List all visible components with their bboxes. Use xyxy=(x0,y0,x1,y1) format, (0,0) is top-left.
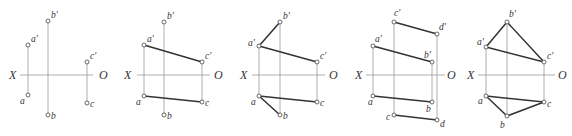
point-label: a xyxy=(368,97,373,107)
point-label: d xyxy=(440,119,445,129)
point-label: b' xyxy=(167,11,175,21)
point-marker xyxy=(505,20,509,24)
point-marker xyxy=(505,114,509,118)
point-label: c xyxy=(205,98,210,108)
axis-label-o: O xyxy=(329,68,338,82)
point-marker xyxy=(142,94,146,98)
projection-edge xyxy=(486,22,507,47)
projection-edge xyxy=(373,96,432,102)
point-marker xyxy=(200,100,204,104)
point-marker xyxy=(162,113,166,117)
point-marker xyxy=(26,43,30,47)
panel-4: XOa'b'c'd'abcd xyxy=(354,8,456,129)
axis-label-x: X xyxy=(239,68,248,82)
projection-figure: XOa'b'c'abcXOa'b'c'abcXOa'b'c'abcXOa'b'c… xyxy=(0,0,572,136)
point-marker xyxy=(142,43,146,47)
axis-label-x: X xyxy=(466,68,475,82)
point-label: d' xyxy=(439,22,447,32)
point-marker xyxy=(392,113,396,117)
projection-edge xyxy=(507,22,544,62)
panel-5: XOa'b'c'abc xyxy=(466,9,567,130)
point-label: b' xyxy=(509,9,517,19)
point-marker xyxy=(278,20,282,24)
point-label: a xyxy=(136,97,141,107)
panel-3: XOa'b'c'abc xyxy=(239,11,338,121)
axis-label-x: X xyxy=(123,68,132,82)
point-label: a xyxy=(251,97,256,107)
projection-edge xyxy=(144,96,202,102)
point-label: b xyxy=(500,120,505,130)
projection-diagram-svg: XOa'b'c'abcXOa'b'c'abcXOa'b'c'abcXOa'b'c… xyxy=(0,0,572,136)
point-marker xyxy=(200,60,204,64)
projection-edge xyxy=(259,46,317,62)
point-label: a' xyxy=(477,37,485,47)
projection-edge xyxy=(507,102,544,116)
panel-1: XOa'b'c'abc xyxy=(8,10,108,121)
point-label: a' xyxy=(147,34,155,44)
point-label: a' xyxy=(31,34,39,44)
point-label: a' xyxy=(375,34,383,44)
point-label: c xyxy=(547,99,552,109)
projection-edge xyxy=(486,96,507,116)
axis-label-o: O xyxy=(447,68,456,82)
point-marker xyxy=(484,45,488,49)
projection-edge xyxy=(394,22,437,34)
point-label: a xyxy=(478,96,483,106)
point-label: a' xyxy=(248,38,256,48)
point-label: b xyxy=(283,111,288,121)
axis-label-x: X xyxy=(354,68,363,82)
point-marker xyxy=(315,100,319,104)
point-label: c' xyxy=(320,51,327,61)
point-label: b' xyxy=(424,50,432,60)
point-label: c xyxy=(90,99,95,109)
point-marker xyxy=(85,101,89,105)
point-label: c' xyxy=(90,51,97,61)
axis-label-x: X xyxy=(8,68,17,82)
point-marker xyxy=(46,113,50,117)
point-marker xyxy=(85,60,89,64)
point-marker xyxy=(542,100,546,104)
projection-edge xyxy=(259,22,280,46)
point-marker xyxy=(257,94,261,98)
projection-edge xyxy=(486,96,544,102)
projection-edge xyxy=(394,115,437,120)
point-marker xyxy=(162,20,166,24)
point-label: b' xyxy=(283,11,291,21)
point-label: b xyxy=(167,111,172,121)
projection-edge xyxy=(259,96,280,115)
point-marker xyxy=(46,19,50,23)
projection-edge xyxy=(144,45,202,62)
axis-label-o: O xyxy=(214,68,223,82)
point-label: c' xyxy=(547,51,554,61)
point-label: c' xyxy=(205,51,212,61)
point-marker xyxy=(392,20,396,24)
point-label: c xyxy=(320,98,325,108)
point-label: b xyxy=(426,104,431,114)
axis-label-o: O xyxy=(99,68,108,82)
point-label: a xyxy=(20,96,25,106)
point-label: c' xyxy=(394,8,401,18)
point-marker xyxy=(542,60,546,64)
point-marker xyxy=(278,113,282,117)
point-marker xyxy=(435,32,439,36)
projection-edge xyxy=(259,96,317,102)
point-marker xyxy=(26,93,30,97)
point-marker xyxy=(435,118,439,122)
point-marker xyxy=(371,44,375,48)
point-label: c xyxy=(386,112,391,122)
point-label: b xyxy=(51,111,56,121)
point-marker xyxy=(315,60,319,64)
point-marker xyxy=(484,94,488,98)
panel-2: XOa'b'c'abc xyxy=(123,11,223,121)
point-marker xyxy=(257,44,261,48)
axis-label-o: O xyxy=(558,68,567,82)
point-label: b' xyxy=(51,10,59,20)
point-marker xyxy=(430,60,434,64)
projection-edge xyxy=(486,47,544,62)
